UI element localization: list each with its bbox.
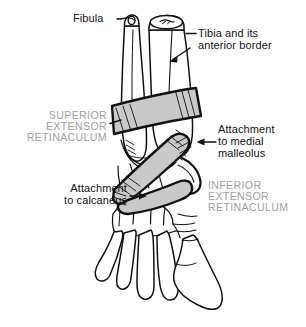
fibula-bone [121, 15, 146, 161]
label-tibia-line2: anterior border [198, 40, 272, 52]
label-medial-malleolus-line3: malleolus [218, 148, 265, 160]
label-inferior-retinaculum-line3: RETINACULUM [208, 202, 288, 213]
label-calcaneus-line2: to calcaneus [27, 195, 127, 207]
anatomy-figure: Fibula Tibia and its anterior border SUP… [0, 0, 306, 327]
medial-malleolus-arrow-head [197, 139, 205, 146]
label-superior-retinaculum-line3: RETINACULUM [0, 132, 107, 143]
metatarsal-bones [95, 230, 222, 309]
label-tibia-line1: Tibia and its [198, 28, 258, 40]
label-medial-malleolus-line1: Attachment [218, 124, 275, 136]
label-fibula: Fibula [73, 13, 104, 25]
label-medial-malleolus-line2: to medial [218, 136, 264, 148]
label-calcaneus-line1: Attachment [27, 183, 127, 195]
